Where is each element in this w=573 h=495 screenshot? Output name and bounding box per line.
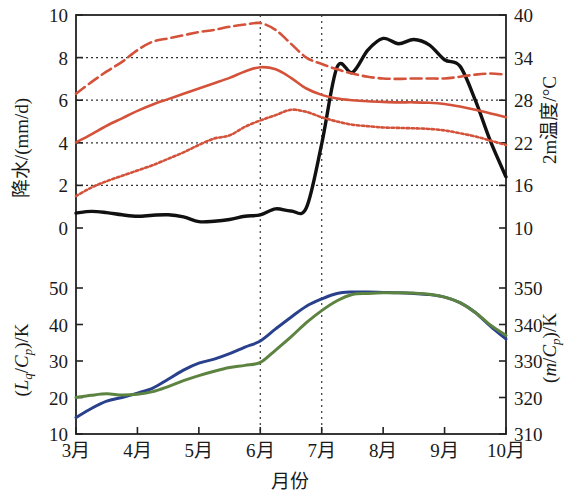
ytick-upper-left-0: 0 (59, 218, 69, 239)
ytick-lower-left-50: 50 (49, 278, 68, 299)
xtick-label-3: 3月 (62, 440, 91, 461)
ytick-upper-right-16: 16 (514, 175, 533, 196)
ytick-lower-left-20: 20 (49, 388, 68, 409)
svg-text:(m/Cp)/K: (m/Cp)/K (539, 313, 563, 383)
dual-panel-line-chart: 0246810101622283440102030405031032033034… (0, 0, 573, 495)
ytick-upper-left-8: 8 (59, 48, 69, 69)
xtick-label-4: 4月 (123, 440, 152, 461)
xtick-label-7: 7月 (307, 440, 336, 461)
ytick-lower-left-30: 30 (49, 351, 68, 372)
xtick-label-6: 6月 (246, 440, 275, 461)
xtick-label-10: 10月 (487, 440, 525, 461)
xtick-label-8: 8月 (369, 440, 398, 461)
xtick-label-9: 9月 (430, 440, 459, 461)
right-axis-top-title: 2m温度/°C (539, 76, 560, 164)
left-axis-top-title: 降水/(mm/d) (11, 98, 33, 198)
ytick-upper-left-10: 10 (49, 5, 68, 26)
svg-text:(Lq/Cp)/K: (Lq/Cp)/K (11, 323, 35, 396)
ytick-upper-right-40: 40 (514, 5, 533, 26)
ytick-lower-right-350: 350 (514, 278, 543, 299)
left-axis-bottom-title: (Lq/Cp)/K (11, 323, 35, 396)
ytick-upper-right-34: 34 (514, 48, 534, 69)
figure-container: 0246810101622283440102030405031032033034… (0, 0, 573, 495)
ytick-upper-left-2: 2 (59, 175, 69, 196)
xtick-label-5: 5月 (185, 440, 214, 461)
ytick-upper-right-28: 28 (514, 90, 533, 111)
right-axis-bottom-title: (m/Cp)/K (539, 313, 563, 383)
x-axis-title: 月份 (271, 471, 309, 492)
ytick-lower-right-320: 320 (514, 388, 543, 409)
ytick-upper-right-10: 10 (514, 218, 533, 239)
ytick-upper-left-4: 4 (59, 133, 69, 154)
ytick-upper-right-22: 22 (514, 133, 533, 154)
ytick-lower-left-40: 40 (49, 315, 68, 336)
ytick-upper-left-6: 6 (59, 90, 69, 111)
